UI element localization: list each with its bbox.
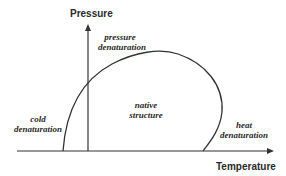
pressure-axis-label: Pressure (70, 8, 113, 19)
heat-denaturation-label-line1: heat (236, 120, 253, 130)
cold-denaturation-label-line1: cold (30, 114, 46, 124)
native-structure-label-line2: structure (128, 110, 163, 120)
pressure-denaturation-label-line2: denaturation (98, 42, 146, 52)
cold-denaturation-label-line2: denaturation (14, 124, 62, 134)
native-structure-label-line1: native (135, 100, 158, 110)
temperature-axis-label: Temperature (216, 161, 276, 172)
heat-denaturation-label-line2: denaturation (220, 130, 268, 140)
temperature-axis-arrow-icon (267, 148, 274, 154)
pressure-denaturation-label-line1: pressure (103, 32, 136, 42)
phase-diagram: Pressure Temperature pressure denaturati… (0, 0, 286, 176)
pressure-axis-arrow-icon (85, 24, 91, 31)
